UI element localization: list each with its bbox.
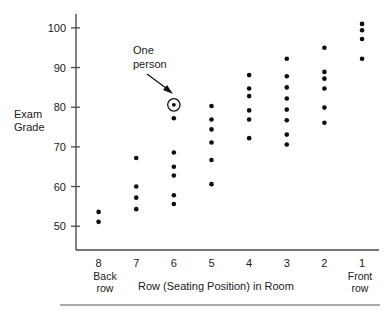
y-tick-label: 100: [48, 22, 66, 34]
chart-axes: [76, 14, 379, 250]
data-point: [322, 120, 327, 125]
data-point: [247, 94, 252, 99]
data-point: [247, 73, 252, 78]
data-point: [284, 107, 289, 112]
x-axis-title: Row (Seating Position) in Room: [138, 280, 294, 292]
data-point: [284, 85, 289, 90]
data-point: [209, 104, 214, 109]
x-tick-label: 8: [96, 257, 102, 269]
data-point: [247, 108, 252, 113]
x-tick-label: 2: [321, 257, 327, 269]
y-axis-tick-labels: 5060708090100: [48, 22, 66, 232]
data-point: [284, 132, 289, 137]
data-point: [209, 158, 214, 163]
annotation-text-line1: One: [133, 44, 154, 56]
x-tick-label: 7: [133, 257, 139, 269]
data-point: [96, 220, 101, 225]
data-point: [322, 105, 327, 110]
annotation-text-line2: person: [133, 58, 167, 70]
data-point: [209, 117, 214, 122]
x-tick-label: 6: [171, 257, 177, 269]
data-point: [172, 173, 177, 178]
y-axis-title-line1: Exam: [14, 108, 42, 120]
data-point: [360, 57, 365, 62]
y-tick-label: 90: [54, 62, 66, 74]
data-point: [172, 164, 177, 169]
data-point: [209, 140, 214, 145]
data-point: [322, 70, 327, 75]
y-tick-label: 80: [54, 101, 66, 113]
y-axis-title-line2: Grade: [14, 121, 45, 133]
data-point: [322, 45, 327, 50]
data-point: [360, 37, 365, 42]
x-axis-tick-labels: 87654321: [96, 257, 366, 269]
data-point: [247, 86, 252, 91]
data-point: [284, 74, 289, 79]
data-point: [360, 28, 365, 33]
data-point: [134, 184, 139, 189]
data-point: [360, 22, 365, 27]
y-tick-label: 70: [54, 141, 66, 153]
back-row-label-line1: Back: [93, 270, 117, 282]
y-tick-label: 50: [54, 220, 66, 232]
x-tick-label: 1: [359, 257, 365, 269]
data-point: [247, 136, 252, 141]
data-point: [284, 142, 289, 147]
data-point: [172, 116, 177, 121]
back-row-label-line2: row: [97, 282, 114, 294]
x-tick-label: 5: [208, 257, 214, 269]
exam-grade-vs-row-scatter-chart: 5060708090100 87654321 Exam Grade Row (S…: [0, 0, 388, 311]
data-point: [247, 117, 252, 122]
highlighted-data-point: [172, 103, 176, 107]
y-tick-label: 60: [54, 181, 66, 193]
data-point: [322, 86, 327, 91]
data-point: [96, 210, 101, 215]
data-point: [134, 207, 139, 212]
data-point: [134, 156, 139, 161]
x-tick-label: 3: [284, 257, 290, 269]
data-point: [172, 193, 177, 198]
data-point: [209, 127, 214, 132]
x-tick-label: 4: [246, 257, 252, 269]
data-point: [284, 57, 289, 62]
data-point: [134, 195, 139, 200]
data-point: [172, 150, 177, 155]
data-point: [172, 202, 177, 207]
scatter-plot-figure: 5060708090100 87654321 Exam Grade Row (S…: [0, 0, 388, 311]
data-point: [209, 182, 214, 187]
data-point: [284, 96, 289, 101]
data-point: [284, 118, 289, 123]
one-person-annotation: One person: [133, 44, 173, 94]
front-row-label-line2: row: [352, 282, 369, 294]
data-point: [322, 76, 327, 81]
front-row-label-line1: Front: [348, 270, 373, 282]
